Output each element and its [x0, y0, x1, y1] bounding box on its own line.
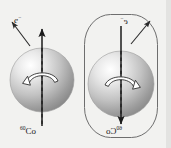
electron-label-left: e− — [14, 15, 22, 25]
cobalt-60-label-left: 60Co — [20, 126, 36, 136]
panel-mirror — [85, 15, 158, 138]
page-edge-strip — [166, 0, 171, 148]
electron-emission-arrow-left — [12, 22, 30, 46]
panel-original — [10, 22, 74, 126]
cobalt-60-label-right: 60Co — [106, 126, 122, 136]
electron-emission-arrow-right — [131, 21, 150, 44]
electron-label-right: e− — [120, 16, 128, 26]
